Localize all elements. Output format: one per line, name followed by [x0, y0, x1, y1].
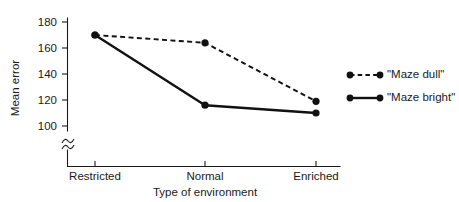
x-axis-title: Type of environment — [153, 186, 258, 198]
legend-marker-bright-left — [347, 95, 354, 102]
y-tick-label-160: 160 — [38, 42, 57, 54]
legend-label-maze-dull: "Maze dull" — [387, 68, 444, 80]
legend-label-maze-bright: "Maze bright" — [387, 91, 455, 103]
y-axis-title: Mean error — [9, 60, 21, 116]
data-point-bright-restricted — [91, 31, 98, 38]
data-point-dull-enriched — [312, 98, 319, 105]
y-tick-label-120: 120 — [38, 94, 57, 106]
legend-item-maze-dull: "Maze dull" — [347, 68, 445, 80]
legend-marker-dull-right — [377, 72, 384, 79]
legend: "Maze dull" "Maze bright" — [347, 68, 456, 103]
y-tick-label-140: 140 — [38, 68, 57, 80]
y-tick-label-180: 180 — [38, 16, 57, 28]
data-point-bright-normal — [201, 102, 208, 109]
y-tick-label-100: 100 — [38, 120, 57, 132]
data-point-bright-enriched — [312, 109, 319, 116]
series-line-maze-bright — [95, 35, 316, 113]
y-axis-break-icon-lower — [62, 145, 74, 149]
y-axis-break-icon — [62, 139, 74, 143]
chart-canvas: Mean error 180 160 140 120 100 Restricte… — [0, 0, 459, 202]
legend-marker-bright-right — [377, 95, 384, 102]
x-tick-label-normal: Normal — [186, 170, 223, 182]
legend-marker-dull-left — [347, 72, 354, 79]
line-chart-figure: Mean error 180 160 140 120 100 Restricte… — [0, 0, 459, 202]
data-point-dull-normal — [201, 39, 208, 46]
legend-item-maze-bright: "Maze bright" — [347, 91, 456, 103]
x-tick-label-enriched: Enriched — [293, 170, 338, 182]
x-tick-label-restricted: Restricted — [69, 170, 121, 182]
